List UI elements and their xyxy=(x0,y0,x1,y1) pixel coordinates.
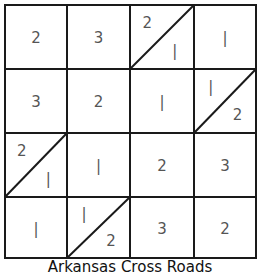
cell-value: 3 xyxy=(94,29,104,47)
cell-value: 2 xyxy=(94,93,104,111)
grid-cell: 2| xyxy=(130,5,194,69)
cell-top-value: | xyxy=(208,78,213,96)
cell-value: | xyxy=(159,93,164,111)
cell-value: 2 xyxy=(157,157,167,175)
cell-bottom-value: 2 xyxy=(233,106,243,124)
cell-value: 3 xyxy=(157,220,167,238)
cell-top-value: | xyxy=(81,205,86,223)
grid-cell: | xyxy=(194,5,256,69)
cell-bottom-value: | xyxy=(172,42,177,60)
cell-value: | xyxy=(33,220,38,238)
grid-cell: 2 xyxy=(194,197,256,258)
grid-cell: 3 xyxy=(194,133,256,197)
cell-top-value: 2 xyxy=(143,14,153,32)
cell-top-value: 2 xyxy=(17,142,27,160)
cell-value: 2 xyxy=(31,29,41,47)
quilt-grid-diagram: 232||32||22||23||232 xyxy=(4,4,257,259)
cell-bottom-value: | xyxy=(46,170,51,188)
grid-cell: 2| xyxy=(5,133,67,197)
grid-cell: | xyxy=(130,69,194,133)
grid-cell: | xyxy=(67,133,130,197)
cell-value: 2 xyxy=(220,220,230,238)
cell-value: 3 xyxy=(31,93,41,111)
grid-cell: 3 xyxy=(5,69,67,133)
grid-cell: |2 xyxy=(194,69,256,133)
cell-value: | xyxy=(96,157,101,175)
grid-cell: 3 xyxy=(130,197,194,258)
cell-bottom-value: 2 xyxy=(106,232,116,250)
grid-cell: 2 xyxy=(130,133,194,197)
grid-cell: | xyxy=(5,197,67,258)
cell-value: | xyxy=(222,29,227,47)
grid-cell: |2 xyxy=(67,197,130,258)
grid-cell: 2 xyxy=(67,69,130,133)
grid-cell: 3 xyxy=(67,5,130,69)
diagram-caption: Arkansas Cross Roads xyxy=(0,259,260,275)
grid-cell: 2 xyxy=(5,5,67,69)
cell-value: 3 xyxy=(220,157,230,175)
